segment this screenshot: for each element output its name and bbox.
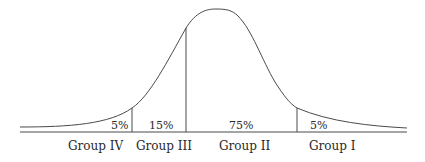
group-label-ii: Group II: [219, 139, 271, 153]
group-label-iv: Group IV: [68, 139, 124, 153]
distribution-diagram: 5% 15% 75% 5% Group IV Group III Group I…: [0, 0, 425, 162]
group-label-i: Group I: [309, 139, 356, 153]
percent-label-group-iv: 5%: [111, 119, 128, 132]
percent-label-group-ii: 75%: [229, 119, 253, 132]
group-label-iii: Group III: [136, 139, 192, 153]
percent-label-group-iii: 15%: [149, 119, 173, 132]
percent-label-group-i: 5%: [310, 119, 327, 132]
distribution-curve: [20, 9, 407, 128]
